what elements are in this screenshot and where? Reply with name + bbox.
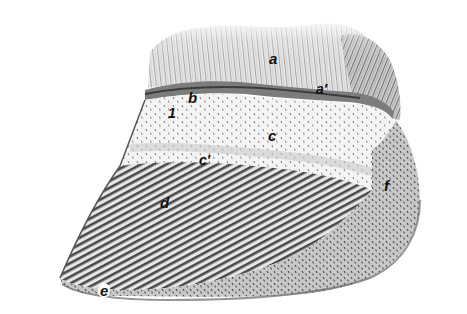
label-a: a: [269, 51, 277, 66]
hoof-illustration: [0, 0, 467, 314]
label-c: c: [268, 128, 276, 143]
label-a-prime: a′: [316, 82, 327, 96]
label-f: f: [384, 178, 389, 193]
label-1: 1: [168, 106, 176, 120]
label-b: b: [188, 90, 197, 105]
label-d: d: [160, 195, 169, 210]
hoof-drawing: [0, 0, 467, 314]
label-c-prime: c′: [199, 153, 210, 167]
